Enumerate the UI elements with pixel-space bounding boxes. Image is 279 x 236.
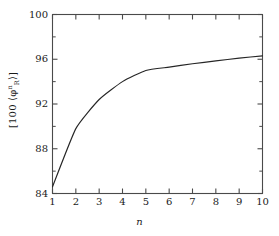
x-axis-tick-labels: 12345678910: [0, 197, 279, 211]
chart-figure: [100 ⟨φnR⟩] 84889296100 12345678910 n: [0, 0, 279, 236]
x-axis-tick-label: 10: [253, 197, 273, 207]
x-axis-tick-label: 2: [66, 197, 86, 207]
x-axis-label: n: [0, 216, 279, 227]
x-axis-tick-label: 4: [113, 197, 133, 207]
plot-frame: [53, 15, 263, 194]
data-series-line: [53, 56, 263, 187]
x-axis-tick-label: 3: [89, 197, 109, 207]
x-axis-tick-label: 6: [159, 197, 179, 207]
x-axis-tick-label: 8: [206, 197, 226, 207]
x-axis-tick-label: 1: [43, 197, 63, 207]
x-axis-tick-label: 7: [183, 197, 203, 207]
x-axis-tick-label: 5: [136, 197, 156, 207]
x-axis-tick-label: 9: [229, 197, 249, 207]
